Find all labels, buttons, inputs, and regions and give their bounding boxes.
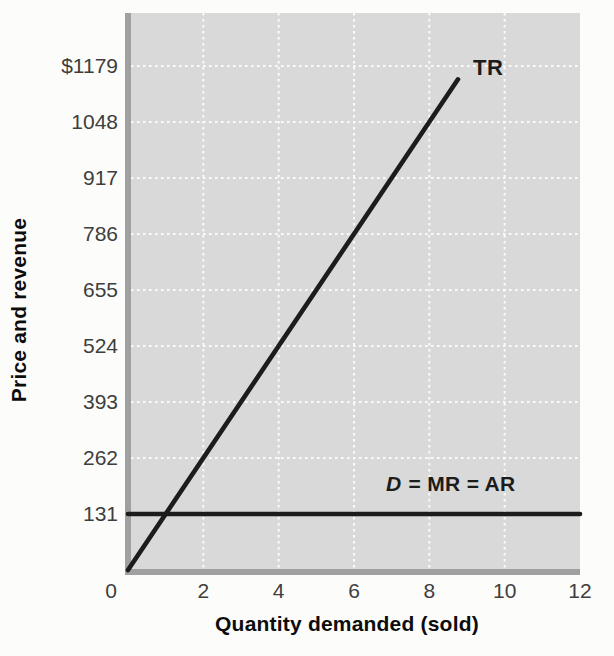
tr-series-label: TR (473, 55, 503, 81)
x-tick-label: 12 (568, 579, 591, 603)
x-axis-title: Quantity demanded (sold) (215, 612, 479, 636)
x-tick-label: 6 (348, 579, 360, 603)
y-tick-label: 786 (83, 222, 118, 246)
y-tick-label: 131 (83, 502, 118, 526)
demand-label-d: D (386, 472, 402, 495)
y-tick-label: $1179 (61, 54, 118, 78)
x-tick-label: 10 (493, 579, 516, 603)
y-tick-label: 917 (83, 166, 118, 190)
y-tick-label: 524 (83, 334, 118, 358)
x-tick-label: 4 (273, 579, 285, 603)
revenue-chart-figure: Price and revenue $117910489177866555243… (0, 0, 614, 656)
y-axis-ticks: $11791048917786655524393262131 (20, 0, 118, 656)
y-tick-label: 655 (83, 278, 118, 302)
demand-label-rest: = MR = AR (402, 472, 515, 495)
y-tick-label: 262 (83, 446, 118, 470)
x-tick-label: 2 (197, 579, 209, 603)
x-tick-label: 8 (423, 579, 435, 603)
x-tick-label: 0 (105, 579, 117, 603)
y-tick-label: 393 (83, 390, 118, 414)
x-axis-ticks: 024681012 (0, 579, 614, 609)
demand-series-label: D = MR = AR (386, 472, 516, 496)
y-tick-label: 1048 (71, 110, 118, 134)
